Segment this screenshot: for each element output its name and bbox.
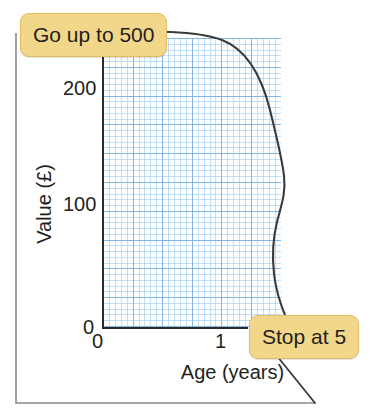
plot-grid-area bbox=[103, 38, 281, 328]
x-axis-line bbox=[102, 327, 248, 329]
callout-stop-at-5[interactable]: Stop at 5 bbox=[249, 315, 359, 359]
y-tick-label-200: 200 bbox=[63, 78, 96, 98]
x-tick-label-0: 0 bbox=[92, 331, 103, 351]
y-tick-label-100: 100 bbox=[63, 194, 96, 214]
callout-go-up-to-500[interactable]: Go up to 500 bbox=[20, 13, 167, 57]
x-axis-title: Age (years) bbox=[145, 361, 320, 383]
chart-page: 200 100 0 0 1 Age (years) Value (£) Go u… bbox=[0, 0, 381, 420]
y-axis-line bbox=[102, 36, 104, 329]
y-axis-title: Value (£) bbox=[33, 137, 55, 272]
x-tick-label-1: 1 bbox=[215, 331, 226, 351]
